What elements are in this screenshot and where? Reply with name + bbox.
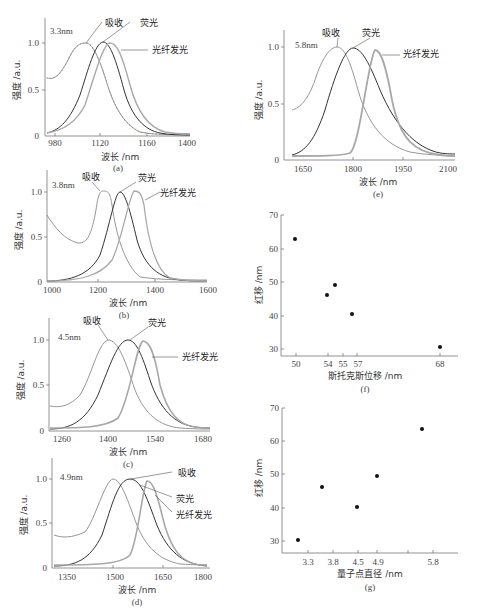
figure: 1.0 0.5 0 980 1120 1160 1400 波长 /nm 强度 /… <box>0 0 479 613</box>
xtick: 1600 <box>199 285 218 295</box>
ytick: 60 <box>269 244 279 254</box>
caption: (a) <box>113 163 123 173</box>
xtick: 1650 <box>154 572 173 582</box>
xtick: 1800 <box>194 572 213 582</box>
caption: (b) <box>119 310 130 320</box>
absorption-curve <box>292 47 455 156</box>
label-fiber-emission: 光纤发光 <box>152 44 188 55</box>
label-absorption: 吸收 <box>105 17 123 28</box>
ytick: 50 <box>270 469 280 479</box>
size-annotation: 5.8nm <box>295 40 318 50</box>
xtick: 1160 <box>138 138 156 148</box>
y-axis-label: 红移 /nm <box>253 266 264 304</box>
xtick: 54 <box>324 359 334 369</box>
xtick: 1500 <box>106 572 125 582</box>
label-absorption: 吸收 <box>82 171 100 182</box>
x-axis-label: 波长 /nm <box>109 446 147 457</box>
y-axis-label: 强度 /a.u. <box>13 210 24 251</box>
size-annotation: 3.8nm <box>52 180 75 190</box>
panel-g-axes <box>282 408 458 553</box>
ytick: 0 <box>40 426 45 436</box>
ytick: 1.0 <box>31 187 43 197</box>
label-fiber-emission: 光纤发光 <box>182 351 218 362</box>
ytick: 30 <box>270 536 280 546</box>
y-axis-label: 强度 /a.u. <box>18 495 29 536</box>
xtick: 1680 <box>194 434 213 444</box>
xtick: 57 <box>354 359 364 369</box>
label-fluorescence: 荧光 <box>138 172 156 183</box>
xtick: 1260 <box>53 434 72 444</box>
panel-a: 1.0 0.5 0 980 1120 1160 1400 波长 /nm 强度 /… <box>11 17 197 173</box>
caption: (e) <box>373 189 383 199</box>
ytick: 1.0 <box>268 42 280 52</box>
label-fiber-emission: 光纤发光 <box>403 48 439 59</box>
absorption-curve <box>47 43 190 135</box>
ytick: 0.5 <box>33 380 45 390</box>
absorption-markers <box>47 43 190 135</box>
xtick: 1800 <box>344 164 363 174</box>
scatter-points <box>293 237 442 349</box>
ytick: 40 <box>269 311 279 321</box>
xtick: 68 <box>436 359 446 369</box>
xtick: 1000 <box>43 285 62 295</box>
ytick: 40 <box>270 503 280 513</box>
size-annotation: 4.5nm <box>58 332 81 342</box>
size-annotation: 3.3nm <box>50 26 73 36</box>
ytick: 70 <box>269 210 279 220</box>
xtick: 1350 <box>58 572 77 582</box>
x-axis-label: 波长 /nm <box>101 151 139 162</box>
fiber-emission-curve <box>292 50 455 156</box>
y-axis-label: 红移 /nm <box>253 459 264 497</box>
panel-d: 1.0 0.5 0 1350 1500 1650 1800 波长 /nm 强度 … <box>18 458 213 607</box>
xtick: 5.8 <box>427 557 439 567</box>
ytick: 50 <box>269 277 279 287</box>
xtick: 4.9 <box>372 557 384 567</box>
x-axis-label: 波长 /nm <box>109 297 147 308</box>
scatter-points <box>296 427 424 542</box>
xtick: 1400 <box>178 138 197 148</box>
xtick: 50 <box>292 359 302 369</box>
ytick: 0 <box>43 563 48 573</box>
ytick: 0.5 <box>268 99 280 109</box>
xtick: 3.8 <box>327 557 339 567</box>
caption: (f) <box>361 384 370 394</box>
fluorescence-curve <box>47 42 190 135</box>
ytick: 0 <box>275 155 280 165</box>
x-axis-label: 量子点直径 /nm <box>337 568 402 579</box>
fiber-emission-curve <box>47 43 190 134</box>
ytick: 0.5 <box>28 85 40 95</box>
xtick: 55 <box>339 359 349 369</box>
xtick: 1400 <box>99 434 118 444</box>
label-fiber-emission: 光纤发光 <box>176 509 212 520</box>
caption: (g) <box>365 582 376 592</box>
ytick: 1.0 <box>28 38 40 48</box>
ytick: 70 <box>270 403 280 413</box>
label-fluorescence: 荧光 <box>140 17 158 28</box>
label-absorption: 吸收 <box>83 315 101 326</box>
label-absorption: 吸收 <box>178 467 196 478</box>
fluorescence-curve <box>292 48 455 155</box>
ytick: 1.0 <box>33 335 45 345</box>
xtick: 1540 <box>146 434 165 444</box>
ytick: 0 <box>35 131 40 141</box>
panel-f: 70 60 50 40 30 50 54 55 57 68 斯托克斯位移 /nm… <box>253 210 458 394</box>
label-fiber-emission: 光纤发光 <box>160 187 196 198</box>
xtick: 3.3 <box>302 557 314 567</box>
xtick: 4.5 <box>352 557 364 567</box>
xtick: 980 <box>48 138 62 148</box>
ytick: 0.5 <box>36 518 48 528</box>
panel-c: 1.0 0.5 0 1260 1400 1540 1680 波长 /nm 强度 … <box>15 315 218 469</box>
ytick: 1.0 <box>36 474 48 484</box>
ytick: 0 <box>38 277 43 287</box>
panel-f-axes <box>281 215 458 356</box>
label-fluorescence: 荧光 <box>176 493 194 504</box>
label-absorption: 吸收 <box>322 27 340 38</box>
ytick: 60 <box>270 436 280 446</box>
panel-b: 1.0 0.5 0 1000 1200 1400 1600 波长 /nm 强度 … <box>13 170 218 320</box>
y-axis-label: 强度 /a.u. <box>253 80 264 121</box>
fluorescence-curve <box>47 192 207 281</box>
label-fluorescence: 荧光 <box>362 27 380 38</box>
y-axis-label: 强度 /a.u. <box>15 360 26 401</box>
fiber-emission-curve <box>47 191 207 281</box>
x-axis-label: 波长 /nm <box>359 176 397 187</box>
